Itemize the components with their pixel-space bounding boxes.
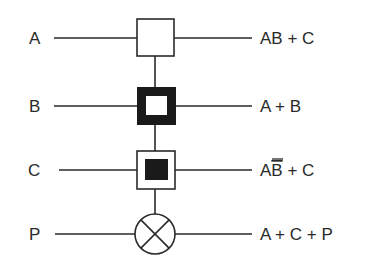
input-label-p: P bbox=[29, 225, 40, 244]
output-label-c-prefix: A bbox=[260, 161, 272, 180]
output-label-c: AB + C bbox=[260, 161, 314, 180]
output-label-b: A + B bbox=[260, 97, 301, 116]
output-label-c-suffix: + C bbox=[283, 161, 315, 180]
input-label-c: C bbox=[28, 161, 40, 180]
hollow-square-gate-icon bbox=[137, 19, 174, 56]
input-label-b: B bbox=[29, 97, 40, 116]
row-b: B A + B bbox=[29, 87, 301, 125]
circle-cross-gate-icon bbox=[135, 214, 175, 254]
row-a: A AB + C bbox=[29, 19, 314, 56]
output-label-c-overline: B bbox=[271, 161, 282, 180]
gate-diagram: A AB + C B A + B C AB + C P A + C + P bbox=[0, 0, 367, 263]
row-p: P A + C + P bbox=[29, 214, 333, 254]
output-label-p: A + C + P bbox=[260, 225, 333, 244]
row-c: C AB + C bbox=[28, 151, 314, 189]
thick-border-square-inner bbox=[146, 96, 167, 115]
input-label-a: A bbox=[29, 29, 41, 48]
output-label-a: AB + C bbox=[260, 29, 314, 48]
filled-inner-square-core bbox=[145, 159, 168, 180]
